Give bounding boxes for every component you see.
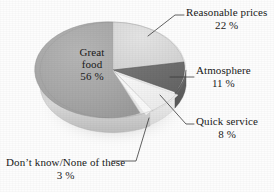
slice-label-atmosphere-name: Atmosphere xyxy=(196,64,251,76)
slice-label-atmosphere-percent: 11 % xyxy=(196,77,251,90)
slice-label-dont-know-percent: 3 % xyxy=(6,169,125,182)
slice-label-great-food-percent: 56 % xyxy=(63,70,121,82)
slice-label-atmosphere: Atmosphere 11 % xyxy=(196,64,251,89)
slice-label-reasonable-prices-name: Reasonable prices xyxy=(186,6,267,18)
slice-label-great-food-line2: food xyxy=(63,58,121,70)
slice-label-quick-service-percent: 8 % xyxy=(196,128,258,141)
pie-slice-reasonable-prices xyxy=(113,22,184,70)
slice-label-quick-service-name: Quick service xyxy=(196,115,258,127)
slice-label-great-food: Great food 56 % xyxy=(63,46,121,82)
pie-chart-figure: Reasonable prices 22 % Atmosphere 11 % Q… xyxy=(0,0,274,192)
slice-label-reasonable-prices: Reasonable prices 22 % xyxy=(186,6,267,31)
slice-label-great-food-line1: Great xyxy=(63,46,121,58)
slice-label-dont-know: Don’t know/None of these 3 % xyxy=(6,156,125,181)
slice-label-reasonable-prices-percent: 22 % xyxy=(186,19,267,32)
slice-label-quick-service: Quick service 8 % xyxy=(196,115,258,140)
slice-label-dont-know-name: Don’t know/None of these xyxy=(6,156,125,168)
